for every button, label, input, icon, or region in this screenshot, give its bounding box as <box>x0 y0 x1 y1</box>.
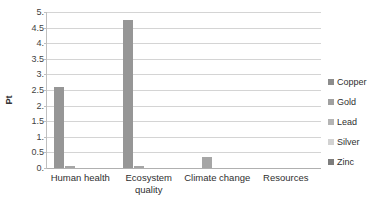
y-axis-tick-label: 2. <box>14 102 44 111</box>
legend-swatch-icon <box>328 99 334 105</box>
legend-item[interactable]: Silver <box>328 132 374 152</box>
legend-swatch-icon <box>328 159 334 165</box>
y-axis-tick-label: 5. <box>14 8 44 17</box>
chart-legend: CopperGoldLeadSilverZinc <box>328 72 374 172</box>
bar <box>65 166 75 168</box>
bars-layer <box>47 12 321 168</box>
x-axis-label: Ecosystem quality <box>115 172 184 196</box>
y-axis-tick-label: 0.5 <box>14 148 44 157</box>
x-axis-category-labels: Human healthEcosystem qualityClimate cha… <box>46 172 320 212</box>
legend-item[interactable]: Lead <box>328 112 374 132</box>
legend-swatch-icon <box>328 139 334 145</box>
y-axis-tick-label: 3.5 <box>14 55 44 64</box>
gridline <box>47 168 321 169</box>
y-axis-tick-label: 2.5 <box>14 86 44 95</box>
caption-strip <box>0 213 375 223</box>
y-axis-tick-label: 0. <box>14 164 44 173</box>
x-axis-label: Climate change <box>183 172 252 184</box>
bar <box>54 87 64 168</box>
legend-label: Zinc <box>337 158 354 167</box>
legend-item[interactable]: Gold <box>328 92 374 112</box>
bar-chart: Pt 5.4.54.3.53.2.52.1.51.0.50. Human hea… <box>0 0 375 223</box>
legend-swatch-icon <box>328 119 334 125</box>
y-axis-tick-label: 4.5 <box>14 24 44 33</box>
bar <box>202 157 212 168</box>
plot-area <box>46 12 320 168</box>
bar <box>123 20 133 168</box>
axis-tick <box>44 168 47 169</box>
y-axis-tick-label: 1. <box>14 133 44 142</box>
y-axis-tick-label: 3. <box>14 70 44 79</box>
legend-swatch-icon <box>328 79 334 85</box>
legend-item[interactable]: Copper <box>328 72 374 92</box>
y-axis-tick-label: 4. <box>14 39 44 48</box>
y-axis-tick-labels: 5.4.54.3.53.2.52.1.51.0.50. <box>14 8 44 168</box>
x-axis-label: Human health <box>46 172 115 184</box>
bar <box>134 166 144 168</box>
legend-label: Silver <box>337 138 360 147</box>
legend-item[interactable]: Zinc <box>328 152 374 172</box>
y-axis-tick-label: 1.5 <box>14 117 44 126</box>
y-axis-title: Pt <box>4 93 14 107</box>
legend-label: Gold <box>337 98 356 107</box>
x-axis-label: Resources <box>252 172 321 184</box>
legend-label: Copper <box>337 78 367 87</box>
legend-label: Lead <box>337 118 357 127</box>
